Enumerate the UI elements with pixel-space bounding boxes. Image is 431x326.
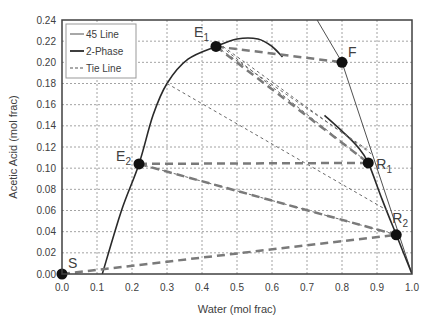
y-tick-label: 0.22 [37,36,57,47]
y-tick-label: 0.02 [37,247,57,258]
two-phase-curve [325,115,413,274]
x-tick-label: 0.5 [230,282,244,293]
x-tick-label: 0.8 [335,282,349,293]
y-tick-labels: 0.000.020.040.060.080.100.120.140.160.18… [37,15,57,280]
tie-line-thick [216,47,342,63]
y-tick-label: 0.04 [37,226,57,237]
y-axis-label: Acetic Acid (mol frac) [7,95,19,198]
x-axis-label: Water (mol frac) [198,303,276,315]
legend-label: 45 Line [86,29,119,40]
x-tick-label: 0.9 [370,282,384,293]
y-tick-label: 0.24 [37,15,57,26]
y-tick-label: 0.18 [37,78,57,89]
y-tick-label: 0.14 [37,120,57,131]
tie-line-thick [139,164,396,235]
label-s: S [68,255,77,271]
tie-line-thin [223,47,374,156]
tie-line-thick [139,163,368,164]
point-e1 [211,41,222,52]
legend-label: 2-Phase [86,46,124,57]
label-r2: R2 [392,210,408,229]
label-e2: E2 [116,148,131,167]
ternary-extraction-chart: 0.00.10.20.30.40.50.60.70.80.91.0 0.000.… [0,0,431,326]
x-tick-label: 0.1 [90,282,104,293]
x-tick-label: 0.2 [125,282,139,293]
x-tick-label: 1.0 [405,282,419,293]
point-r1 [363,157,374,168]
y-tick-label: 0.08 [37,184,57,195]
point-f [337,57,348,68]
x-tick-label: 0.4 [195,282,209,293]
label-f: F [348,44,357,60]
point-r2 [391,229,402,240]
y-tick-label: 0.12 [37,142,57,153]
x-tick-label: 0.6 [265,282,279,293]
legend-label: Tie Line [86,63,122,74]
x-tick-label: 0.7 [300,282,314,293]
x-tick-label: 0.0 [55,282,69,293]
y-tick-label: 0.20 [37,57,57,68]
y-tick-label: 0.00 [37,269,57,280]
chart-canvas: 0.00.10.20.30.40.50.60.70.80.91.0 0.000.… [0,0,431,326]
x-tick-label: 0.3 [160,282,174,293]
point-e2 [134,158,145,169]
x-tick-labels: 0.00.10.20.30.40.50.60.70.80.91.0 [55,282,419,293]
y-tick-label: 0.16 [37,99,57,110]
legend: 45 Line2-PhaseTie Line [66,24,136,78]
y-tick-label: 0.06 [37,205,57,216]
y-tick-label: 0.10 [37,163,57,174]
